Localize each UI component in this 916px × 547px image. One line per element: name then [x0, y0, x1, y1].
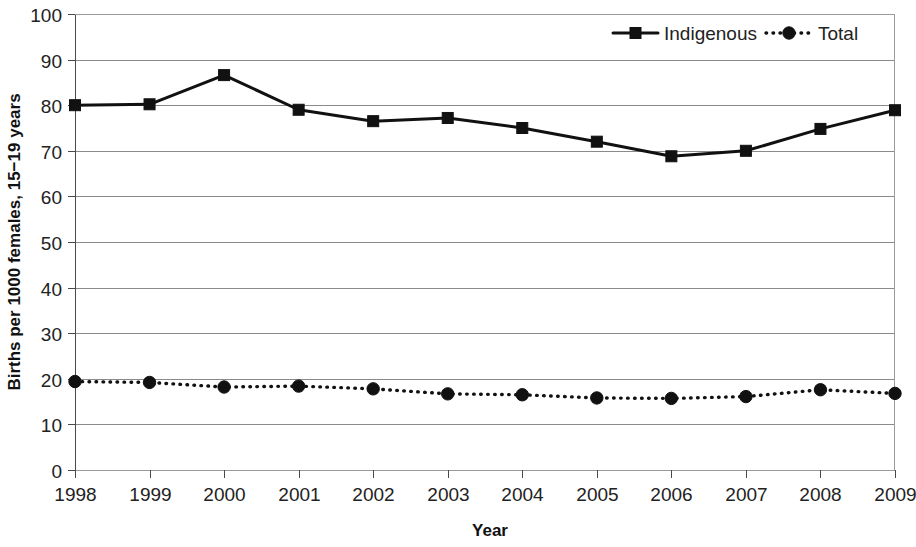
y-tick-label-40: 40 [41, 279, 62, 300]
series-line-total [75, 382, 895, 399]
legend-marker-total [783, 27, 795, 39]
data-point-total-2006 [665, 392, 677, 404]
series-line-indigenous [75, 75, 895, 156]
data-point-indigenous-1998 [70, 100, 81, 111]
x-tick-label-2009: 2009 [874, 484, 916, 505]
data-point-indigenous-2005 [591, 136, 602, 147]
data-point-indigenous-2002 [368, 116, 379, 127]
y-tick-label-90: 90 [41, 51, 62, 72]
data-point-total-2003 [442, 388, 454, 400]
data-point-total-2004 [516, 389, 528, 401]
data-point-total-2008 [814, 384, 826, 396]
x-tick-label-2005: 2005 [576, 484, 618, 505]
x-tick-label-1999: 1999 [129, 484, 171, 505]
data-point-total-2005 [591, 392, 603, 404]
y-tick-label-0: 0 [51, 461, 62, 482]
series-indigenous [70, 70, 901, 162]
y-axis-title: Births per 1000 females, 15−19 years [5, 93, 24, 390]
data-point-total-2007 [740, 390, 752, 402]
legend: IndigenousTotal [613, 23, 858, 44]
data-point-total-2000 [218, 381, 230, 393]
y-gridlines: 0102030405060708090100 [30, 5, 895, 482]
legend-label-total: Total [818, 23, 858, 44]
y-tick-label-10: 10 [41, 415, 62, 436]
data-point-indigenous-2006 [666, 151, 677, 162]
data-point-indigenous-2004 [517, 123, 528, 134]
data-point-indigenous-2007 [740, 145, 751, 156]
data-point-indigenous-2009 [890, 105, 901, 116]
x-axis-title: Year [472, 521, 508, 540]
data-point-indigenous-2003 [442, 112, 453, 123]
x-tick-label-2008: 2008 [799, 484, 841, 505]
y-tick-label-60: 60 [41, 187, 62, 208]
data-point-total-2002 [367, 383, 379, 395]
legend-marker-indigenous [630, 28, 641, 39]
x-tick-label-2001: 2001 [278, 484, 320, 505]
y-tick-label-100: 100 [30, 5, 62, 26]
data-point-indigenous-1999 [144, 99, 155, 110]
data-point-total-2001 [292, 380, 304, 392]
x-tick-label-2006: 2006 [650, 484, 692, 505]
data-point-indigenous-2008 [815, 123, 826, 134]
chart-container: 0102030405060708090100199819992000200120… [0, 0, 916, 547]
data-point-total-1999 [143, 376, 155, 388]
data-point-total-2009 [889, 387, 901, 399]
x-tick-label-2003: 2003 [427, 484, 469, 505]
x-tick-label-1998: 1998 [54, 484, 96, 505]
legend-item-total[interactable]: Total [766, 23, 858, 44]
x-tick-label-2007: 2007 [725, 484, 767, 505]
y-tick-label-80: 80 [41, 96, 62, 117]
x-tick-label-2002: 2002 [352, 484, 394, 505]
legend-label-indigenous: Indigenous [664, 23, 757, 44]
data-point-indigenous-2001 [293, 104, 304, 115]
x-tick-label-2000: 2000 [203, 484, 245, 505]
legend-item-indigenous[interactable]: Indigenous [613, 23, 757, 44]
x-tick-label-2004: 2004 [501, 484, 544, 505]
data-point-total-1998 [69, 375, 81, 387]
y-tick-label-20: 20 [41, 370, 62, 391]
data-point-indigenous-2000 [219, 70, 230, 81]
y-tick-label-30: 30 [41, 324, 62, 345]
x-axis: 1998199920002001200220032004200520062007… [54, 470, 916, 505]
y-tick-label-50: 50 [41, 233, 62, 254]
series-group [69, 70, 901, 405]
y-tick-label-70: 70 [41, 142, 62, 163]
line-chart: 0102030405060708090100199819992000200120… [0, 0, 916, 547]
